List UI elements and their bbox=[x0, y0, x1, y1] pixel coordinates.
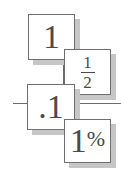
percent-symbol: % bbox=[87, 128, 105, 150]
card-percent: 1% bbox=[64, 119, 111, 163]
decimal-value: .1 bbox=[38, 90, 64, 124]
fraction-numerator: 1 bbox=[83, 54, 92, 71]
percent-value: 1% bbox=[70, 124, 105, 158]
connector-right bbox=[75, 103, 121, 104]
percent-number: 1 bbox=[70, 124, 87, 158]
whole-value: 1 bbox=[43, 20, 60, 54]
fraction-denominator: 2 bbox=[83, 74, 92, 91]
fraction: 1 2 bbox=[81, 54, 95, 91]
